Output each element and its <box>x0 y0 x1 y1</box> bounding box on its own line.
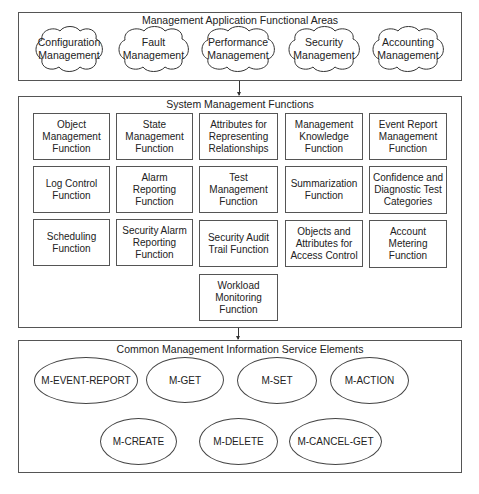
cloud-label: Fault Management <box>115 24 192 74</box>
cloud-performance-management: Performance Management <box>198 24 278 74</box>
cloud-label: Security Management <box>285 24 363 74</box>
cmise-m-get: M-GET <box>146 357 224 403</box>
fn-log-control: Log Control Function <box>33 166 110 213</box>
arrow-down-icon <box>238 328 239 339</box>
fn-test-management: Test Management Function <box>199 166 278 213</box>
system-functions-title: System Management Functions <box>19 98 461 110</box>
fn-event-report-management: Event Report Management Function <box>369 113 447 160</box>
fn-security-alarm-reporting: Security Alarm Reporting Function <box>116 219 193 266</box>
cmise-m-action: M-ACTION <box>330 357 409 404</box>
fn-management-knowledge: Management Knowledge Function <box>285 113 363 160</box>
fn-scheduling: Scheduling Function <box>33 219 110 266</box>
fn-attributes-relationships: Attributes for Representing Relationship… <box>199 113 278 160</box>
fn-alarm-reporting: Alarm Reporting Function <box>116 166 193 213</box>
arrow-down-icon <box>239 81 240 95</box>
cmise-m-set: M-SET <box>237 357 317 404</box>
fn-object-management: Object Management Function <box>33 113 110 160</box>
fn-workload-monitoring: Workload Monitoring Function <box>199 274 278 321</box>
fn-account-metering: Account Metering Function <box>369 220 447 268</box>
cloud-label: Configuration Management <box>32 24 106 74</box>
cloud-label: Accounting Management <box>369 24 447 74</box>
cmise-m-cancel-get: M-CANCEL-GET <box>289 418 382 465</box>
service-elements-title: Common Management Information Service El… <box>19 343 461 355</box>
fn-objects-access-control: Objects and Attributes for Access Contro… <box>285 220 363 267</box>
cmise-m-event-report: M-EVENT-REPORT <box>34 357 138 404</box>
fn-security-audit-trail: Security Audit Trail Function <box>199 220 278 267</box>
fn-state-management: State Management Function <box>116 113 193 160</box>
fn-summarization: Summarization Function <box>285 166 363 213</box>
cmise-m-delete: M-DELETE <box>199 418 278 465</box>
cloud-accounting-management: Accounting Management <box>369 24 447 74</box>
cloud-label: Performance Management <box>198 24 278 74</box>
cloud-fault-management: Fault Management <box>115 24 192 74</box>
cloud-configuration-management: Configuration Management <box>32 24 106 74</box>
cmise-m-create: M-CREATE <box>100 418 177 465</box>
fn-confidence-diagnostic: Confidence and Diagnostic Test Categorie… <box>369 166 447 214</box>
cloud-security-management: Security Management <box>285 24 363 74</box>
